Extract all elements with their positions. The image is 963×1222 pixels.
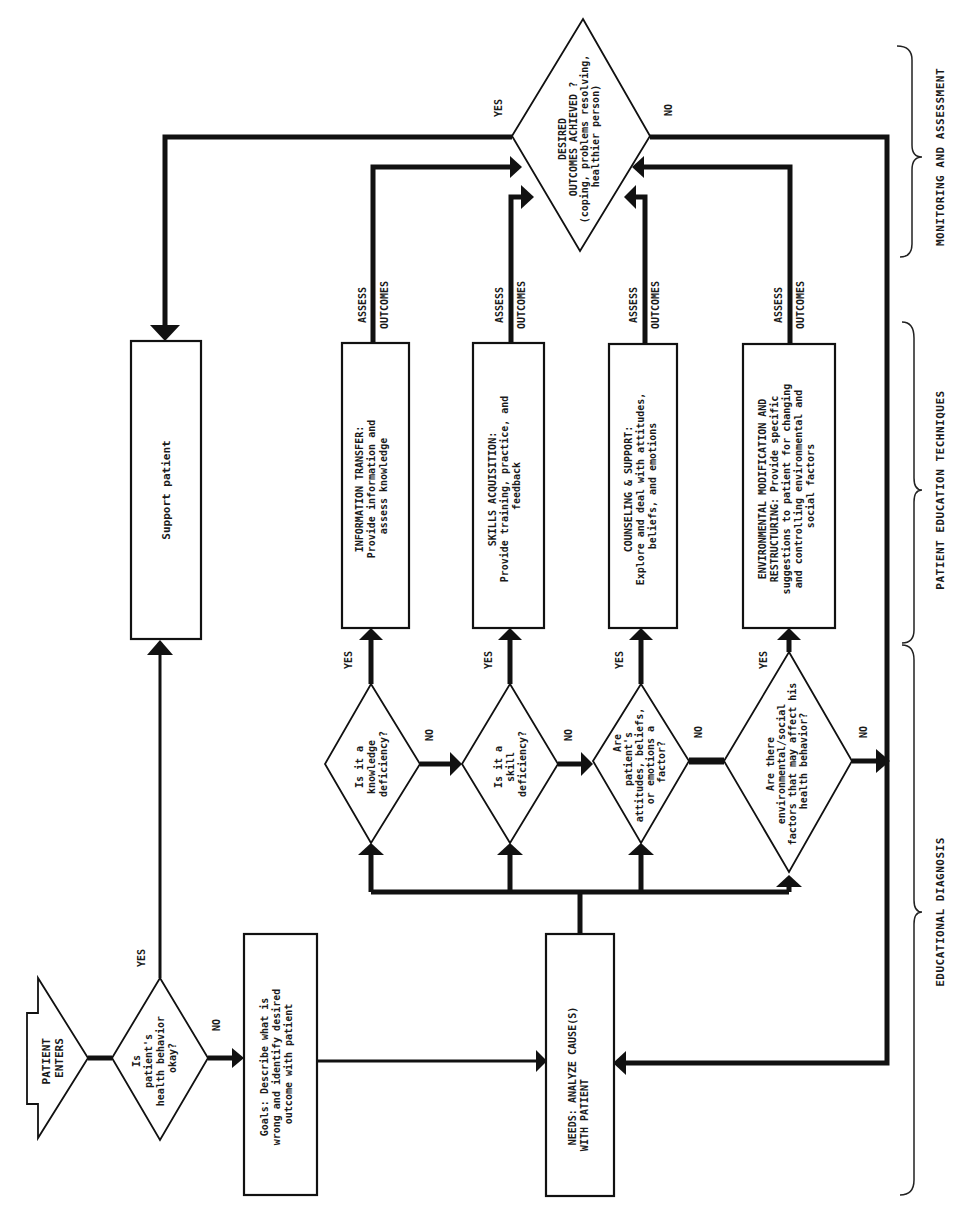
- arrow-up-icon: [629, 628, 653, 640]
- label-no: NO: [858, 726, 869, 738]
- arrow-up-icon: [359, 628, 383, 640]
- svg-text:OUTCOMES: OUTCOMES: [795, 281, 806, 329]
- label-no: NO: [563, 729, 574, 741]
- label-yes: YES: [136, 949, 147, 967]
- label-yes: YES: [758, 651, 769, 669]
- brace-monitoring: [897, 46, 922, 257]
- label-no: NO: [693, 726, 704, 738]
- svg-text:ASSESS: ASSESS: [357, 287, 368, 323]
- arrow-left-icon: [624, 185, 636, 209]
- label-no: NO: [424, 729, 435, 741]
- section-educational-diagnosis: EDUCATIONAL DIAGNOSIS: [934, 837, 947, 987]
- label-yes: YES: [493, 99, 504, 117]
- connector-t1-outcome: [373, 167, 512, 343]
- arrow-up-icon: [777, 628, 801, 640]
- arrow-up-icon: [498, 628, 522, 640]
- brace-educational-diagnosis: [900, 645, 922, 1195]
- section-patient-education-techniques: PATIENT EDUCATION TECHNIQUES: [934, 390, 947, 589]
- svg-text:ASSESS: ASSESS: [773, 287, 784, 323]
- connector-t4-outcome: [642, 167, 790, 343]
- support-text: Support patient: [160, 440, 173, 539]
- label-no: NO: [663, 104, 674, 116]
- label-yes: YES: [343, 651, 354, 669]
- svg-text:ASSESS: ASSESS: [494, 287, 505, 323]
- arrow-right-icon: [232, 1048, 244, 1068]
- svg-text:OUTCOMES: OUTCOMES: [516, 281, 527, 329]
- brace-education-techniques: [902, 322, 922, 643]
- label-yes: YES: [483, 651, 494, 669]
- label-no: NO: [211, 1019, 222, 1031]
- decision-1-text: Is it a knowledge deficiency?: [354, 731, 389, 797]
- arrow-up-icon: [776, 875, 802, 887]
- flowchart: PATIENT ENTERS Is patient's health behav…: [0, 0, 963, 1222]
- svg-text:OUTCOMES: OUTCOMES: [650, 281, 661, 329]
- svg-text:OUTCOMES: OUTCOMES: [379, 281, 390, 329]
- arrow-right-icon: [581, 752, 593, 776]
- arrow-up-icon: [147, 640, 173, 655]
- section-monitoring-assessment: MONITORING AND ASSESSMENT: [934, 68, 947, 246]
- arrow-up-icon: [497, 843, 523, 855]
- arrow-right-icon: [521, 185, 534, 209]
- needs-box: [546, 934, 614, 1196]
- arrow-down-icon: [150, 325, 180, 341]
- goals-text: Goals: Describe what is wrong and identi…: [259, 983, 294, 1146]
- arrow-up-icon: [628, 843, 654, 855]
- arrow-up-icon: [358, 843, 384, 855]
- label-yes: YES: [614, 651, 625, 669]
- start-label: PATIENT ENTERS: [40, 1032, 66, 1085]
- arrow-right-icon: [450, 752, 462, 776]
- svg-text:ASSESS: ASSESS: [628, 287, 639, 323]
- arrow-right-icon: [510, 156, 522, 178]
